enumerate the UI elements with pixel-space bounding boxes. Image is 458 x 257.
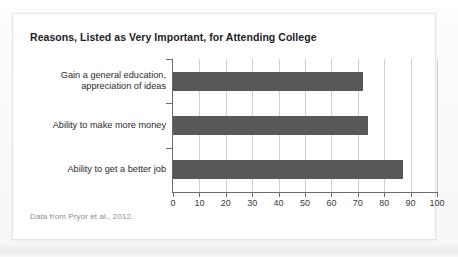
category-label: Ability to get a better job bbox=[18, 164, 173, 176]
category-label-line: Ability to make more money bbox=[18, 120, 166, 132]
bar bbox=[173, 72, 363, 91]
x-axis-tick bbox=[411, 193, 412, 197]
x-axis-tick bbox=[199, 193, 200, 197]
x-axis-tick bbox=[358, 193, 359, 197]
x-axis-tick bbox=[279, 193, 280, 197]
plot-wrapper: Gain a general education,appreciation of… bbox=[19, 56, 431, 211]
x-axis-tick-label: 70 bbox=[345, 198, 371, 208]
y-axis-tick bbox=[166, 103, 173, 104]
bar bbox=[173, 116, 368, 135]
category-label: Gain a general education,appreciation of… bbox=[18, 70, 173, 93]
x-axis-tick-label: 90 bbox=[398, 198, 424, 208]
x-axis-tick bbox=[226, 193, 227, 197]
x-axis-tick bbox=[384, 193, 385, 197]
x-axis-tick-label: 50 bbox=[292, 198, 318, 208]
gridline-90 bbox=[411, 59, 412, 192]
plot-area: Gain a general education,appreciation of… bbox=[173, 59, 437, 192]
x-axis-tick-label: 100 bbox=[424, 198, 450, 208]
x-axis-tick bbox=[305, 193, 306, 197]
chart-source-note: Data from Pryor et al., 2012. bbox=[30, 212, 133, 221]
y-axis-tick-top bbox=[166, 59, 173, 60]
category-label-line: appreciation of ideas bbox=[18, 81, 166, 93]
x-axis-tick-label: 20 bbox=[213, 198, 239, 208]
bar bbox=[173, 160, 403, 179]
x-axis-tick bbox=[437, 193, 438, 197]
x-axis-tick-label: 0 bbox=[160, 198, 186, 208]
category-label-line: Ability to get a better job bbox=[18, 164, 166, 176]
x-axis-tick bbox=[331, 193, 332, 197]
page-edge-top bbox=[0, 0, 458, 8]
chart-title: Reasons, Listed as Very Important, for A… bbox=[30, 31, 317, 43]
page-edge-bottom bbox=[0, 245, 458, 257]
x-axis-tick bbox=[252, 193, 253, 197]
category-label: Ability to make more money bbox=[18, 120, 173, 132]
x-axis-tick-label: 80 bbox=[371, 198, 397, 208]
x-axis-tick bbox=[173, 193, 174, 197]
x-axis-tick-label: 60 bbox=[318, 198, 344, 208]
chart-card: Reasons, Listed as Very Important, for A… bbox=[12, 13, 436, 240]
gridline-100 bbox=[437, 59, 438, 192]
x-axis-tick-label: 40 bbox=[266, 198, 292, 208]
x-axis-tick-label: 30 bbox=[239, 198, 265, 208]
figure-background: Reasons, Listed as Very Important, for A… bbox=[0, 0, 458, 257]
y-axis-tick bbox=[166, 148, 173, 149]
category-label-line: Gain a general education, bbox=[18, 70, 166, 82]
x-axis-tick-label: 10 bbox=[186, 198, 212, 208]
